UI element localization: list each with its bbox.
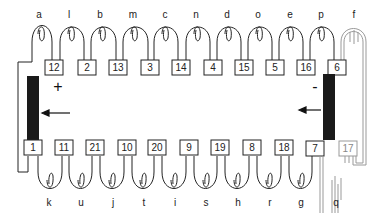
label-h: h <box>235 197 241 208</box>
label-k: k <box>47 197 53 208</box>
segment-15: 15 <box>238 62 250 73</box>
segment-3: 3 <box>147 62 153 73</box>
label-a: a <box>36 9 42 20</box>
segment-21: 21 <box>89 142 101 153</box>
label-d: d <box>224 9 230 20</box>
left-brush-positive <box>27 76 39 140</box>
label-i: i <box>174 197 176 208</box>
segment-7: 7 <box>312 143 318 154</box>
top-labels: a l b m c n d o e p f <box>36 9 355 20</box>
bottom-coils <box>38 156 312 189</box>
label-c: c <box>163 9 168 20</box>
label-b: b <box>97 9 103 20</box>
segment-11: 11 <box>59 142 70 153</box>
label-l: l <box>68 9 70 20</box>
segment-16: 16 <box>300 62 312 73</box>
left-arrow-icon <box>42 110 70 116</box>
segment-5: 5 <box>272 62 278 73</box>
label-n: n <box>193 9 199 20</box>
segment-1: 1 <box>30 142 36 153</box>
segment-6: 6 <box>334 62 340 73</box>
segment-9: 9 <box>186 142 192 153</box>
label-f: f <box>353 9 356 20</box>
segment-14: 14 <box>175 62 187 73</box>
label-r: r <box>268 197 272 208</box>
top-boxes: 12 2 13 3 14 4 15 5 16 6 <box>45 60 346 75</box>
segment-18: 18 <box>278 142 290 153</box>
label-j: j <box>111 197 114 208</box>
bottom-labels: k u j t i s h r g q <box>47 197 339 208</box>
label-s: s <box>204 197 209 208</box>
segment-4: 4 <box>210 62 216 73</box>
left-arrow-icon-right <box>299 107 321 113</box>
right-brush-negative <box>323 74 335 140</box>
label-u: u <box>78 197 84 208</box>
segment-2: 2 <box>84 62 90 73</box>
label-g: g <box>298 197 304 208</box>
label-q: q <box>333 197 339 208</box>
commutator-winding-diagram: a l b m c n d o e p f 12 2 <box>0 0 381 213</box>
segment-8: 8 <box>249 142 255 153</box>
label-p: p <box>318 9 324 20</box>
segment-19: 19 <box>214 142 226 153</box>
segment-17: 17 <box>342 143 354 154</box>
plus-sign: + <box>53 78 62 95</box>
label-m: m <box>129 9 137 20</box>
segment-20: 20 <box>151 142 163 153</box>
segment-13: 13 <box>112 62 124 73</box>
minus-sign: - <box>312 78 317 95</box>
bottom-boxes: 1 11 21 10 20 9 19 8 18 7 17 <box>24 140 357 156</box>
label-e: e <box>287 9 293 20</box>
segment-10: 10 <box>121 142 133 153</box>
segment-12: 12 <box>48 62 60 73</box>
label-o: o <box>255 9 261 20</box>
label-t: t <box>143 197 146 208</box>
